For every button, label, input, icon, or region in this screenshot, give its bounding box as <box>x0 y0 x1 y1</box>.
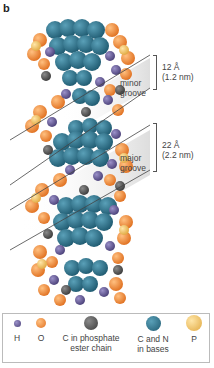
minor-groove-width: 12 Å (1.2 nm) <box>162 62 194 82</box>
legend-item-phosphate-carbon: C in phosphate ester chain <box>55 316 127 353</box>
legend-item-phosphorus: P <box>181 315 207 344</box>
legend-item-hydrogen: H <box>7 320 27 343</box>
base-carbon-nitrogen-atom-ball-icon <box>146 316 161 331</box>
atom-legend: H O C in phosphate ester chain C and N i… <box>2 313 210 363</box>
hydrogen-atom-ball-icon <box>14 320 21 327</box>
legend-item-oxygen: O <box>29 318 53 343</box>
oxygen-atom-ball-icon <box>36 318 46 328</box>
major-groove-bracket <box>153 123 157 172</box>
major-groove-label: major groove <box>120 153 146 173</box>
major-groove-width: 22 Å (2.2 nm) <box>162 140 194 160</box>
phosphate-carbon-atom-ball-icon <box>84 316 98 330</box>
legend-item-base-carbon-nitrogen: C and N in bases <box>131 316 175 354</box>
minor-groove-label: minor groove <box>120 78 146 98</box>
phosphorus-atom-ball-icon <box>186 315 202 331</box>
minor-groove-bracket <box>153 55 157 90</box>
